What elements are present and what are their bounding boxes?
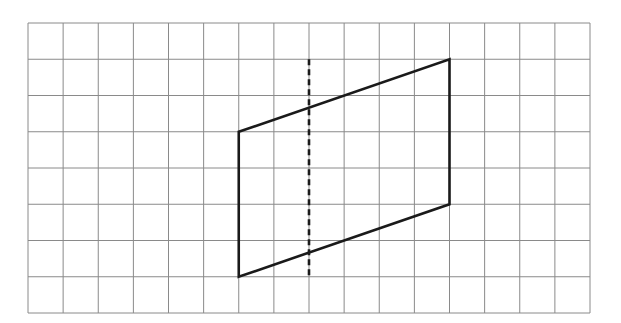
- grid-diagram: [0, 0, 621, 323]
- diagram-svg: [0, 0, 621, 323]
